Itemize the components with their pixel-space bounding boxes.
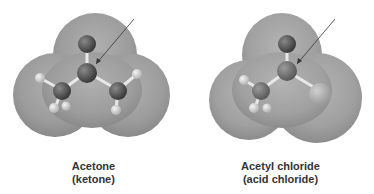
acetyl-chloride-figure: Acetyl chloride (acid chloride) <box>187 0 374 194</box>
acetyl-chloride-caption: Acetyl chloride (acid chloride) <box>187 160 374 186</box>
acetone-caption: Acetone (ketone) <box>0 160 187 186</box>
hydrogen-atom <box>249 103 259 113</box>
molecule-class: (acid chloride) <box>187 173 374 186</box>
molecule-name: Acetone <box>0 160 187 173</box>
hydrogen-atom <box>49 103 59 113</box>
acetone-figure: Acetone (ketone) <box>0 0 187 194</box>
carbonyl-carbon-atom <box>77 63 97 83</box>
hydrogen-atom <box>62 102 71 111</box>
hydrogen-atom <box>132 69 142 79</box>
molecule-class: (ketone) <box>0 173 187 186</box>
acetone-model <box>0 0 187 160</box>
hydrogen-atom <box>263 104 272 113</box>
methyl-carbon-atom <box>53 82 71 100</box>
hydrogen-atom <box>35 73 45 83</box>
methyl-carbon-atom <box>252 82 270 100</box>
hydrogen-atom <box>239 75 249 85</box>
oxygen-atom <box>278 35 296 53</box>
molecule-name: Acetyl chloride <box>187 160 374 173</box>
carbonyl-carbon-atom <box>277 61 297 81</box>
chlorine-atom <box>309 83 331 105</box>
methyl-carbon-atom <box>109 82 127 100</box>
acetyl-chloride-model <box>187 0 374 160</box>
hydrogen-atom <box>111 105 121 115</box>
oxygen-atom <box>78 35 96 53</box>
